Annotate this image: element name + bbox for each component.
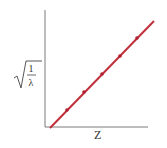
data-point xyxy=(135,36,139,40)
data-point xyxy=(100,72,104,76)
x-axis-label: Z xyxy=(94,128,101,143)
y-axis-label: 1 λ xyxy=(12,58,44,92)
y-label-numerator: 1 xyxy=(29,63,34,74)
data-point xyxy=(82,90,86,94)
data-point xyxy=(65,108,69,112)
y-label-denominator: λ xyxy=(29,77,34,88)
data-point xyxy=(118,54,122,58)
